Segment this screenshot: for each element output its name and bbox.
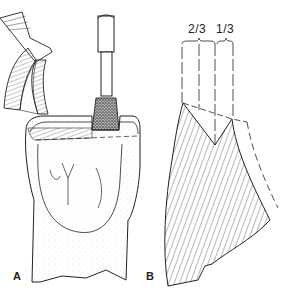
dental-illustration — [0, 0, 291, 296]
inset-cross-section — [0, 12, 52, 114]
section-b — [165, 38, 278, 286]
panel-label-b: B — [146, 270, 154, 282]
tooth-crown — [25, 116, 140, 282]
panel-label-a: A — [13, 270, 21, 282]
stone-bur — [92, 15, 119, 130]
fraction-two-thirds: 2/3 — [188, 22, 206, 36]
fraction-one-third: 1/3 — [216, 22, 234, 36]
